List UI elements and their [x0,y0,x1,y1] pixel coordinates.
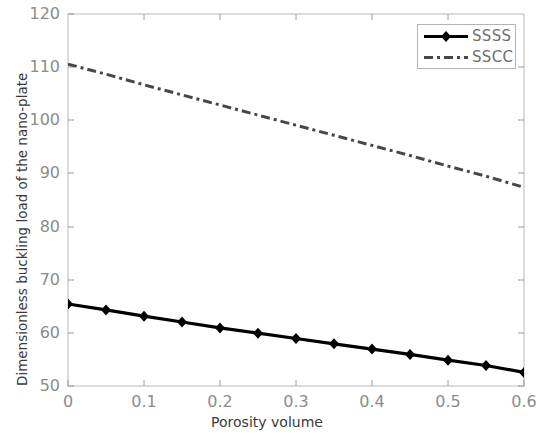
legend-sample-sscc [423,47,469,68]
y-axis-label: Dimensionless buckling load of the nano-… [16,73,30,386]
legend-item-sscc[interactable]: SSCC [418,47,517,68]
ytick-label-120: 120 [16,6,60,22]
xtick-label-0-6: 0.6 [504,394,541,410]
legend-sample-ssss [423,26,469,47]
xtick-label-0-5: 0.5 [428,394,468,410]
xtick-label-0: 0 [48,394,88,410]
xtick-label-0-1: 0.1 [124,394,164,410]
x-axis-label: Porosity volume [0,415,534,429]
legend[interactable]: SSSS SSCC [417,24,516,69]
xtick-label-0-3: 0.3 [276,394,316,410]
legend-label-sscc: SSCC [472,50,513,65]
xtick-label-0-2: 0.2 [200,394,240,410]
plot-frame [68,14,524,386]
xtick-label-0-4: 0.4 [352,394,392,410]
legend-item-ssss[interactable]: SSSS [418,26,517,47]
legend-label-ssss: SSSS [472,29,511,44]
